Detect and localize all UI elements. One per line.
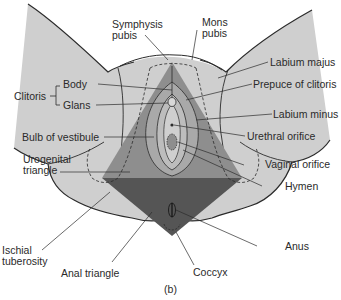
label-ischial-tuberosity-2: tuberosity [2, 255, 48, 267]
vaginal-orifice [167, 134, 177, 150]
clitoris-glans [168, 98, 176, 107]
label-anal-triangle: Anal triangle [61, 267, 120, 279]
label-labium-majus: Labium majus [270, 56, 335, 68]
urethral-orifice [170, 123, 173, 126]
label-labium-minus: Labium minus [273, 108, 338, 120]
label-urethral-orifice: Urethral orifice [247, 130, 315, 142]
label-hymen: Hymen [285, 180, 318, 192]
label-prepuce-of-clitoris: Prepuce of clitoris [253, 78, 336, 90]
label-coccyx: Coccyx [193, 266, 228, 278]
label-urogenital-triangle-2: triangle [23, 164, 58, 176]
label-mons-pubis-2: pubis [202, 27, 227, 39]
label-symphysis-pubis-2: pubis [112, 29, 137, 41]
label-clitoris-glans: Glans [63, 99, 90, 111]
label-vaginal-orifice: Vaginal orifice [265, 158, 330, 170]
label-anus: Anus [285, 240, 309, 252]
label-bulb-of-vestibule: Bulb of vestibule [22, 131, 99, 143]
perineum-diagram: Symphysis pubis Mons pubis Clitoris Body… [0, 0, 341, 300]
panel-label: (b) [0, 283, 341, 295]
label-clitoris-body: Body [63, 78, 88, 90]
label-clitoris: Clitoris [14, 90, 46, 102]
